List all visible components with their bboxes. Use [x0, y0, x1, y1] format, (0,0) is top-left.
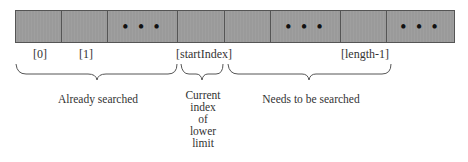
label-current-index: Current index of lower limit — [182, 89, 224, 149]
brace-needs-search — [228, 64, 391, 80]
brace-already-searched — [16, 64, 177, 80]
label-needs-search: Needs to be searched — [256, 93, 366, 105]
label-already-searched: Already searched — [56, 93, 140, 105]
brace-current-index — [181, 64, 223, 80]
curly-braces — [0, 0, 468, 162]
